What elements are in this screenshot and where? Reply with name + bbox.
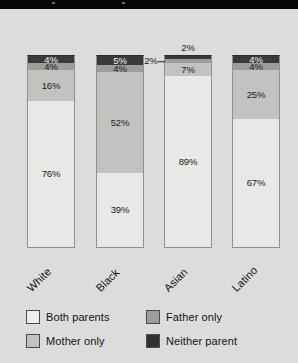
bar-segment-mother: 25% bbox=[232, 70, 280, 118]
bar-segment-mother: 7% bbox=[164, 63, 212, 77]
segment-value-label: 16% bbox=[42, 81, 60, 91]
segment-value-label: 39% bbox=[111, 205, 129, 215]
x-axis-label-asian: Asian bbox=[162, 266, 190, 294]
legend-label-both-parents: Both parents bbox=[46, 311, 110, 323]
header-tick-mark bbox=[122, 2, 125, 4]
bar-black: 5%4%52%39% bbox=[96, 55, 144, 248]
segment-value-label: 7% bbox=[181, 65, 194, 75]
segment-value-label: 52% bbox=[111, 118, 129, 128]
bar-segment-both: 67% bbox=[232, 119, 280, 248]
segment-value-label: 2% bbox=[181, 43, 194, 53]
legend-label-neither-parent: Neither parent bbox=[166, 335, 237, 347]
bar-segment-father: 4% bbox=[232, 63, 280, 71]
chart-page: 4%4%16%76%5%4%52%39%2%2%7%89%4%4%25%67%W… bbox=[0, 0, 298, 363]
legend-label-mother-only: Mother only bbox=[46, 335, 105, 347]
bar-white: 4%4%16%76% bbox=[27, 55, 75, 248]
segment-value-label: 76% bbox=[42, 169, 60, 179]
bar-latino: 4%4%25%67% bbox=[232, 55, 280, 248]
legend-item-neither-parent: Neither parent bbox=[146, 334, 272, 348]
bar-segment-mother: 16% bbox=[27, 70, 75, 101]
legend-item-both-parents: Both parents bbox=[26, 310, 146, 324]
x-axis-label-black: Black bbox=[94, 266, 122, 294]
bar-segment-father: 4% bbox=[27, 63, 75, 71]
legend-swatch-mother-only bbox=[26, 334, 40, 348]
legend-swatch-father-only bbox=[146, 310, 160, 324]
legend-swatch-both-parents bbox=[26, 310, 40, 324]
stacked-bar-chart: 4%4%16%76%5%4%52%39%2%2%7%89%4%4%25%67%W… bbox=[0, 9, 298, 300]
header-tick-mark bbox=[52, 2, 55, 4]
legend-item-father-only: Father only bbox=[146, 310, 272, 324]
page-header-band bbox=[0, 0, 298, 9]
chart-legend: Both parents Father only Mother only Nei… bbox=[26, 305, 272, 353]
bar-asian: 2%2%7%89% bbox=[164, 55, 212, 248]
bar-segment-both: 89% bbox=[164, 76, 212, 248]
bar-segment-both: 39% bbox=[96, 173, 144, 248]
segment-value-label: 25% bbox=[247, 90, 265, 100]
legend-item-mother-only: Mother only bbox=[26, 334, 146, 348]
bar-segment-both: 76% bbox=[27, 101, 75, 248]
legend-swatch-neither-parent bbox=[146, 334, 160, 348]
segment-value-label: 89% bbox=[179, 157, 197, 167]
segment-value-label: 2% bbox=[144, 56, 164, 66]
segment-value-label: 67% bbox=[247, 178, 265, 188]
bar-segment-father: 4% bbox=[96, 65, 144, 73]
x-axis-label-white: White bbox=[25, 265, 54, 294]
bar-segment-mother: 52% bbox=[96, 72, 144, 172]
legend-label-father-only: Father only bbox=[166, 311, 222, 323]
x-axis-label-latino: Latino bbox=[230, 264, 260, 294]
